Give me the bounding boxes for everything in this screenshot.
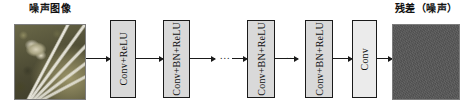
noisy-input-image (14, 24, 86, 100)
layer-conv-bn-relu-1: Conv+BN+ReLU (163, 20, 190, 98)
ellipsis-repeat-1: ... (220, 51, 231, 61)
input-image-caption: 噪声图像 (14, 3, 86, 15)
layer-conv-bn-relu-2: Conv+BN+ReLU (247, 20, 275, 98)
layer-conv-bn-relu-2-label: Conv+BN+ReLU (256, 22, 267, 96)
residual-noise-image (392, 24, 460, 100)
arrow-ellipsis-1-to-conv-bn-relu-2 (232, 58, 247, 59)
arrow-input-to-conv-relu (86, 58, 110, 59)
arrow-conv-relu-to-conv-bn-relu-1 (136, 58, 163, 59)
network-architecture-diagram: 噪声图像 Conv+ReLU Conv+BN+ReLU ... Conv+BN+… (0, 0, 476, 112)
layer-conv-bn-relu-1-label: Conv+BN+ReLU (171, 22, 182, 96)
arrow-conv-bn-relu-1-to-ellipsis-1 (190, 58, 215, 59)
layer-conv-label: Conv (359, 48, 370, 70)
layer-conv-relu-label: Conv+ReLU (118, 32, 129, 86)
arrow-conv-bn-relu-3-to-conv (333, 58, 352, 59)
output-image-caption: 残差（噪声） (388, 3, 464, 15)
ellipsis-repeat-2: ... (286, 51, 297, 61)
layer-conv: Conv (352, 20, 377, 98)
arrow-conv-to-residual (377, 58, 392, 59)
layer-conv-bn-relu-3: Conv+BN+ReLU (305, 20, 333, 98)
layer-conv-relu: Conv+ReLU (110, 20, 136, 98)
layer-conv-bn-relu-3-label: Conv+BN+ReLU (314, 22, 325, 96)
